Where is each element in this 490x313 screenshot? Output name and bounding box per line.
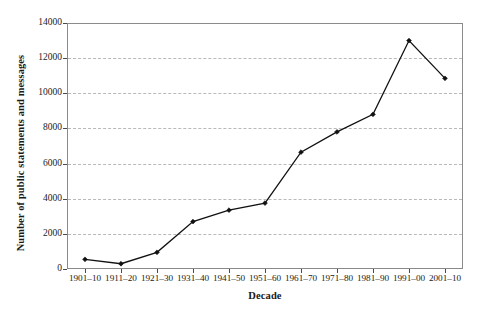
plot-area <box>67 23 463 269</box>
y-tick-label: 2000 <box>28 229 62 239</box>
y-tick-mark <box>63 128 67 129</box>
y-tick-label: 8000 <box>28 123 62 133</box>
y-tick-label: 14000 <box>28 18 62 28</box>
gridline <box>68 93 462 94</box>
x-tick-mark <box>373 269 374 273</box>
y-tick-label: 12000 <box>28 53 62 63</box>
x-tick-mark <box>157 269 158 273</box>
x-tick-mark <box>265 269 266 273</box>
y-tick-mark <box>63 234 67 235</box>
y-tick-mark <box>63 93 67 94</box>
gridline <box>68 234 462 235</box>
x-tick-mark <box>121 269 122 273</box>
x-tick-mark <box>193 269 194 273</box>
x-tick-label: 2001–10 <box>417 274 473 283</box>
x-tick-mark <box>229 269 230 273</box>
gridline <box>68 199 462 200</box>
x-tick-mark <box>85 269 86 273</box>
y-tick-label: 0 <box>28 264 62 274</box>
x-tick-mark <box>445 269 446 273</box>
y-tick-mark <box>63 23 67 24</box>
x-tick-mark <box>301 269 302 273</box>
y-axis-title: Number of public statements and messages <box>14 18 28 288</box>
gridline <box>68 128 462 129</box>
gridline <box>68 164 462 165</box>
gridline <box>68 58 462 59</box>
y-tick-label: 4000 <box>28 194 62 204</box>
x-tick-mark <box>337 269 338 273</box>
y-tick-label: 10000 <box>28 88 62 98</box>
y-tick-mark <box>63 269 67 270</box>
y-tick-label: 6000 <box>28 159 62 169</box>
y-tick-mark <box>63 164 67 165</box>
y-tick-mark <box>63 58 67 59</box>
x-axis-title: Decade <box>67 290 463 301</box>
y-tick-mark <box>63 199 67 200</box>
line-chart: Number of public statements and messages… <box>0 0 490 313</box>
x-tick-mark <box>409 269 410 273</box>
